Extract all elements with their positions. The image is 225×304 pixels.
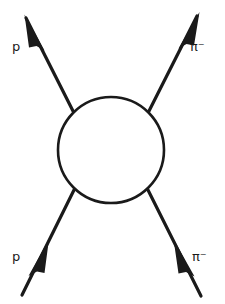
feynman-diagram-canvas: p π⁻ p π⁻ (0, 0, 225, 304)
label-upper-left-particle: p (12, 40, 20, 53)
label-upper-right-particle: π⁻ (190, 40, 205, 53)
label-lower-left-particle: p (12, 250, 20, 263)
interaction-blob (58, 97, 164, 203)
label-lower-right-particle: π⁻ (192, 250, 207, 263)
